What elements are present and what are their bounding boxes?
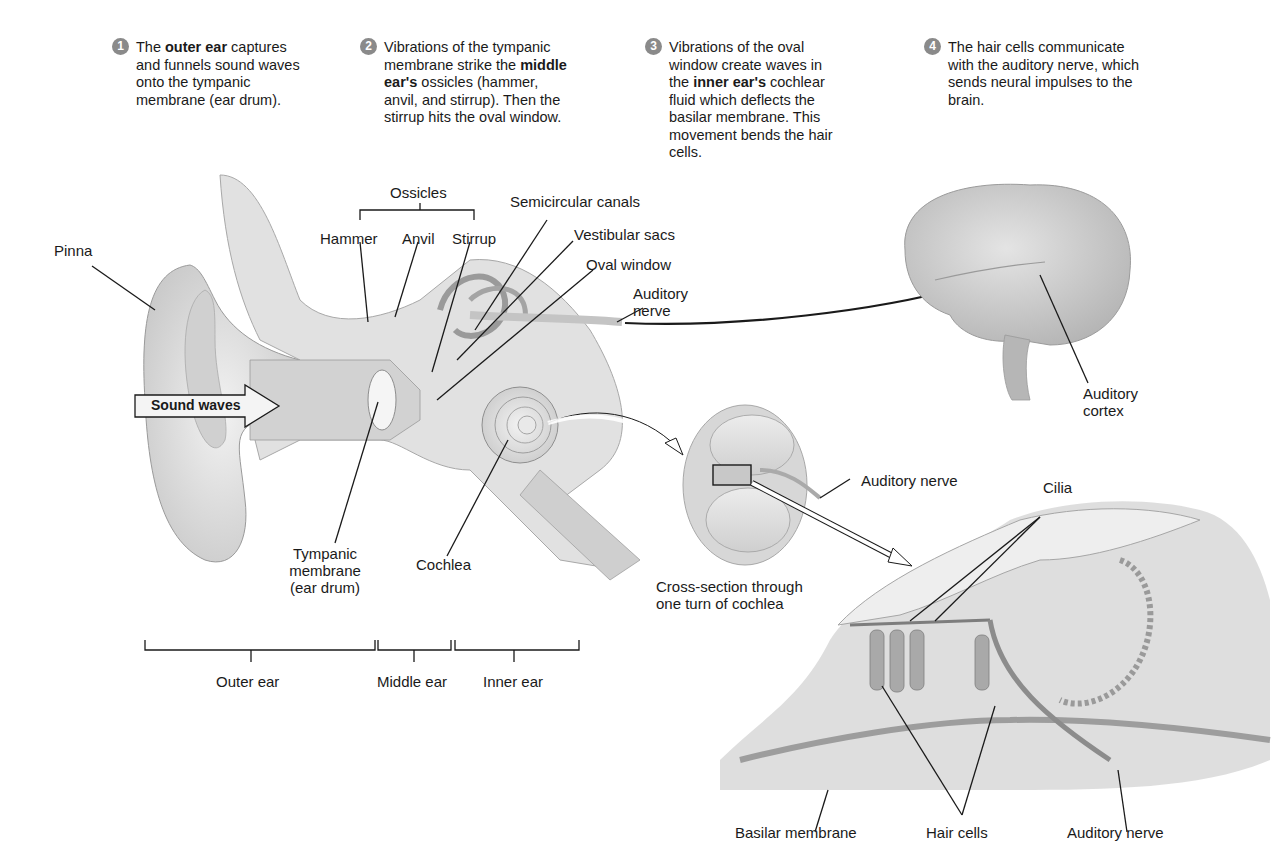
- sound-waves-label: Sound waves: [151, 397, 240, 413]
- label-oval-window: Oval window: [586, 256, 671, 273]
- label-auditory-nerve-ear: Auditory nerve: [633, 285, 688, 319]
- label-hammer: Hammer: [320, 230, 378, 247]
- label-vestibular-sacs: Vestibular sacs: [574, 226, 675, 243]
- label-auditory-nerve-corti: Auditory nerve: [1067, 824, 1164, 841]
- organ-of-corti-shape: [720, 501, 1270, 790]
- label-tympanic-membrane: Tympanic membrane (ear drum): [280, 545, 370, 596]
- label-middle-ear: Middle ear: [377, 673, 447, 690]
- label-stirrup: Stirrup: [452, 230, 496, 247]
- label-inner-ear: Inner ear: [483, 673, 543, 690]
- label-cilia: Cilia: [1043, 479, 1072, 496]
- label-auditory-nerve-cross-section: Auditory nerve: [861, 472, 958, 489]
- cochlea-shape: [482, 387, 558, 463]
- label-outer-ear: Outer ear: [216, 673, 279, 690]
- label-auditory-cortex: Auditory cortex: [1083, 385, 1138, 419]
- label-cross-section-caption: Cross-section through one turn of cochle…: [656, 578, 803, 612]
- label-ossicles: Ossicles: [390, 184, 447, 201]
- brain-shape: [905, 184, 1131, 400]
- label-hair-cells: Hair cells: [926, 824, 988, 841]
- sound-waves-arrow: Sound waves: [133, 383, 283, 429]
- label-basilar-membrane: Basilar membrane: [735, 824, 857, 841]
- label-pinna: Pinna: [54, 242, 92, 259]
- label-anvil: Anvil: [402, 230, 435, 247]
- label-semicircular-canals: Semicircular canals: [510, 193, 640, 210]
- label-cochlea: Cochlea: [416, 556, 471, 573]
